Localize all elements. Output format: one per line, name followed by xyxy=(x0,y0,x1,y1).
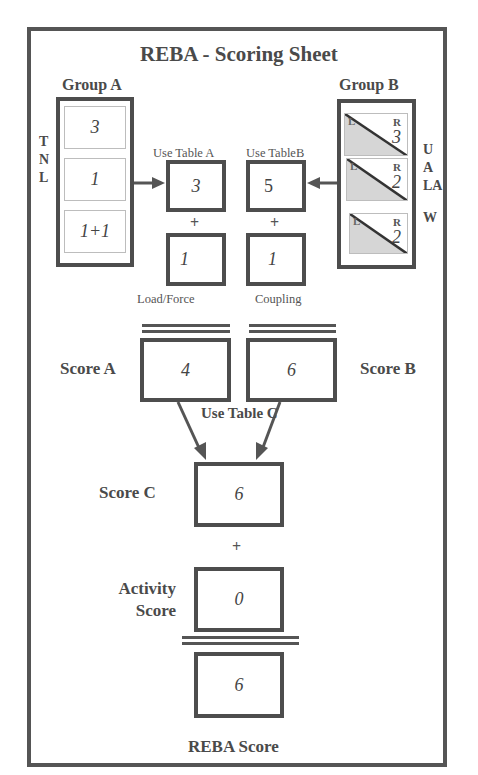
group-a-side-letters: T N L xyxy=(39,133,49,187)
group-b-side-letters: U A LA W xyxy=(423,141,442,227)
neck-score[interactable]: 1 xyxy=(64,158,126,201)
reba-score-value[interactable]: 6 xyxy=(194,652,284,718)
table-b-score[interactable]: 5 xyxy=(246,160,306,212)
arrow-right-icon xyxy=(134,176,166,190)
coupling-label: Coupling xyxy=(255,292,302,307)
reba-score-label: REBA Score xyxy=(188,737,279,757)
double-line-divider xyxy=(182,636,299,645)
page-title: REBA - Scoring Sheet xyxy=(0,42,478,67)
plus-sign: + xyxy=(190,214,199,232)
double-line-divider xyxy=(249,324,336,333)
table-a-score[interactable]: 3 xyxy=(166,160,226,212)
legs-score[interactable]: 1+1 xyxy=(64,210,126,253)
activity-score-label: Activity Score xyxy=(106,578,176,622)
score-b-value[interactable]: 6 xyxy=(246,338,337,402)
plus-sign: + xyxy=(270,214,279,232)
table-a-label: Use Table A xyxy=(153,146,214,161)
coupling-score[interactable]: 1 xyxy=(246,233,306,286)
load-force-score[interactable]: 1 xyxy=(166,233,226,286)
activity-score-value[interactable]: 0 xyxy=(194,567,284,632)
score-a-value[interactable]: 4 xyxy=(140,338,231,402)
double-line-divider xyxy=(142,324,230,333)
score-a-label: Score A xyxy=(60,359,116,379)
score-c-label: Score C xyxy=(99,483,156,503)
trunk-score[interactable]: 3 xyxy=(64,106,126,149)
upper-arm-score[interactable]: L R 3 xyxy=(344,113,408,156)
lower-arm-score[interactable]: L R 2 xyxy=(346,158,408,201)
table-b-label: Use TableB xyxy=(246,146,304,161)
score-c-value[interactable]: 6 xyxy=(194,462,284,527)
score-b-label: Score B xyxy=(360,359,416,379)
table-c-label: Use Table C xyxy=(201,405,278,422)
plus-sign: + xyxy=(232,538,241,556)
group-b-label: Group B xyxy=(339,76,399,94)
group-a-label: Group A xyxy=(62,76,122,94)
wrist-score[interactable]: L R 2 xyxy=(349,213,408,254)
load-force-label: Load/Force xyxy=(137,292,195,307)
arrow-left-icon xyxy=(307,176,339,190)
